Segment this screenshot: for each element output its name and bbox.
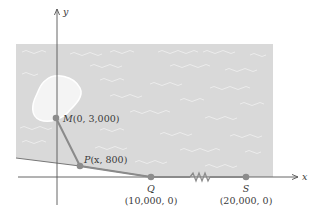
diagram-canvas: y x M(0, 3,000) P(x, 800) Q (10,000, 0) … <box>0 0 310 219</box>
y-axis-label: y <box>62 6 69 17</box>
label-S-coords: (20,000, 0) <box>220 195 273 206</box>
label-M-name: M <box>62 113 73 124</box>
label-M: M(0, 3,000) <box>62 113 119 124</box>
label-P: P(x, 800) <box>83 154 127 165</box>
x-axis-label: x <box>302 171 308 182</box>
label-S-name: S <box>243 183 250 194</box>
point-S <box>243 174 250 181</box>
point-M <box>53 115 60 122</box>
label-Q-coords: (10,000, 0) <box>125 195 178 206</box>
point-P <box>77 163 84 170</box>
label-Q-name: Q <box>147 183 155 194</box>
label-P-coords: (x, 800) <box>90 154 127 165</box>
label-M-coords: (0, 3,000) <box>73 113 120 124</box>
point-Q <box>148 174 155 181</box>
